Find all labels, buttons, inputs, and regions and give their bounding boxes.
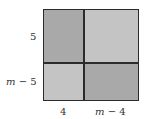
column-label-right-var: m (95, 106, 104, 117)
vertical-divider (83, 9, 85, 101)
column-label-left: 4 (60, 107, 66, 117)
row-label-top: 5 (30, 32, 36, 42)
row-label-bottom: m − 5 (6, 77, 37, 87)
outer-border (43, 9, 139, 101)
column-label-right: m − 4 (95, 107, 126, 117)
row-label-bottom-var: m (6, 76, 15, 87)
horizontal-divider (43, 62, 139, 64)
